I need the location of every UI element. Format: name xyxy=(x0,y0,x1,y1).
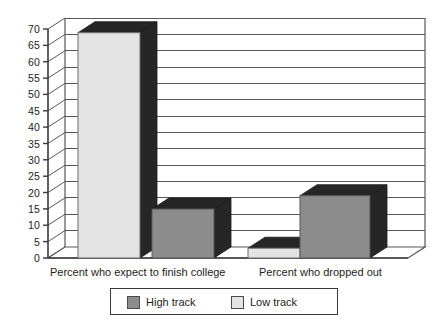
y-tick-label: 50 xyxy=(12,89,40,99)
depth-line-30 xyxy=(48,149,65,160)
legend-swatch-high-track-icon xyxy=(127,296,140,309)
legend-label-high-track: High track xyxy=(146,296,196,309)
y-tick-label: 35 xyxy=(12,139,40,149)
y-tick-label: 15 xyxy=(12,204,40,214)
depth-line-25 xyxy=(48,165,65,176)
y-tick-label: 60 xyxy=(12,57,40,67)
depth-line-35 xyxy=(48,133,65,144)
y-tick-label: 30 xyxy=(12,155,40,165)
bar-front-face xyxy=(152,209,214,258)
legend-entry-low-track: Low track xyxy=(231,294,297,311)
bar-group1-low-track xyxy=(78,22,157,258)
depth-line-15 xyxy=(48,198,65,209)
bar-group1-high-track xyxy=(152,198,231,258)
category-label-group2: Percent who dropped out xyxy=(259,266,382,279)
bar-front-face xyxy=(248,248,300,258)
category-label-group1: Percent who expect to finish college xyxy=(50,266,226,279)
depth-line-10 xyxy=(48,214,65,225)
y-tick-label: 10 xyxy=(12,220,40,230)
y-tick-label: 25 xyxy=(12,171,40,181)
bar-side-face xyxy=(214,198,231,258)
depth-line-50 xyxy=(48,83,65,94)
depth-line-60 xyxy=(48,51,65,62)
y-tick-label: 45 xyxy=(12,106,40,116)
y-tick-label: 40 xyxy=(12,122,40,132)
bar-group2-high-track xyxy=(300,185,387,258)
depth-line-20 xyxy=(48,182,65,193)
legend: High track Low track xyxy=(110,288,338,315)
bar-chart: 70 65 60 55 50 45 40 35 30 25 20 15 10 5… xyxy=(0,0,446,326)
y-tick-label: 20 xyxy=(12,188,40,198)
depth-line-5 xyxy=(48,231,65,242)
y-tick-label: 55 xyxy=(12,73,40,83)
y-tick-label: 0 xyxy=(12,253,40,263)
legend-label-low-track: Low track xyxy=(250,296,297,309)
depth-connectors-group xyxy=(48,18,65,258)
y-tick-label: 70 xyxy=(12,24,40,34)
bar-front-face xyxy=(78,33,140,258)
depth-line-40 xyxy=(48,116,65,127)
legend-entry-high-track: High track xyxy=(127,294,196,311)
bar-front-face xyxy=(300,196,370,258)
depth-line-70 xyxy=(48,18,65,29)
depth-line-65 xyxy=(48,34,65,45)
y-tick-label: 65 xyxy=(12,40,40,50)
bar-side-face xyxy=(370,185,387,258)
legend-swatch-low-track-icon xyxy=(231,296,244,309)
depth-line-55 xyxy=(48,67,65,78)
y-axis-tick-labels: 70 65 60 55 50 45 40 35 30 25 20 15 10 5… xyxy=(6,0,40,326)
depth-line-45 xyxy=(48,100,65,111)
y-tick-label: 5 xyxy=(12,237,40,247)
